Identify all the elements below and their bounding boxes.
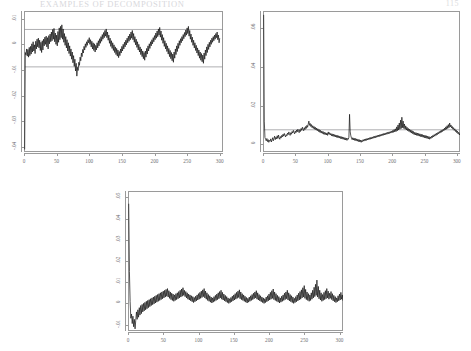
series-plot [128,191,343,331]
x-tick-label: 150 [113,158,131,164]
x-axis-line [128,332,343,333]
y-tick-label: .05 [111,193,125,201]
y-tick-label: .01 [111,278,125,286]
y-tick-label: -.02 [7,92,21,100]
x-tick-label: 200 [260,337,278,343]
x-tick-label: 100 [80,158,98,164]
y-tick-label: -.03 [7,117,21,125]
x-tick-label: 250 [295,337,313,343]
scanned-page: Examples of Decomposition 115 .010-.01-.… [0,0,471,351]
y-tick-label: .06 [246,24,260,32]
y-tick-label: 0 [246,140,260,148]
y-tick-label: .02 [246,102,260,110]
page-number: 115 [446,0,459,8]
x-tick-label: 300 [330,337,348,343]
running-header: Examples of Decomposition [40,0,270,9]
x-tick-label: 100 [319,158,337,164]
x-tick-label: 250 [178,158,196,164]
x-tick-label: 150 [225,337,243,343]
x-axis-line [24,153,223,154]
x-tick-label: 200 [145,158,163,164]
x-tick-label: 300 [448,158,466,164]
x-tick-label: 100 [189,337,207,343]
y-axis-line [21,11,22,152]
y-tick-label: .04 [111,215,125,223]
y-tick-label: -.01 [7,66,21,74]
x-tick-label: 150 [351,158,369,164]
y-tick-label: .03 [111,236,125,244]
y-tick-label: .01 [7,15,21,23]
x-axis-line [263,153,460,154]
x-tick-label: 250 [415,158,433,164]
x-tick-label: 0 [119,337,137,343]
y-tick-label: 0 [7,40,21,48]
series-plot [24,11,223,152]
x-tick-label: 0 [15,158,33,164]
x-tick-label: 300 [211,158,229,164]
y-tick-label: -.01 [111,321,125,329]
y-axis-line [260,11,261,152]
x-tick-label: 200 [383,158,401,164]
x-tick-label: 50 [48,158,66,164]
y-axis-line [125,191,126,331]
y-tick-label: 0 [111,299,125,307]
chart-panel-bottom [128,191,343,331]
y-tick-label: .02 [111,257,125,265]
series-plot [263,11,460,152]
y-tick-label: -.04 [7,143,21,151]
x-tick-label: 50 [154,337,172,343]
x-tick-label: 50 [286,158,304,164]
x-tick-label: 0 [254,158,272,164]
y-tick-label: .04 [246,63,260,71]
chart-panel-top-left [24,11,223,152]
chart-panel-top-right [263,11,460,152]
